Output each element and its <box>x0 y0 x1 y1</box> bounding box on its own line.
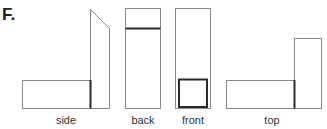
figure-label: F. <box>2 5 15 24</box>
back-view: back <box>126 9 161 127</box>
top-tall-block <box>295 39 322 109</box>
front-emphasis-square <box>179 80 207 108</box>
side-label: side <box>56 114 76 126</box>
front-view: front <box>176 9 211 127</box>
orthographic-views-diagram: F. side back front top <box>0 0 327 129</box>
top-label: top <box>264 114 279 126</box>
side-view: side <box>23 10 110 127</box>
top-base-block <box>227 81 295 109</box>
back-outline <box>126 9 161 109</box>
side-sloped-block <box>91 10 110 109</box>
front-outline <box>176 9 211 109</box>
back-label: back <box>131 114 155 126</box>
top-view: top <box>227 39 322 127</box>
side-base-block <box>23 81 91 109</box>
front-label: front <box>182 114 204 126</box>
